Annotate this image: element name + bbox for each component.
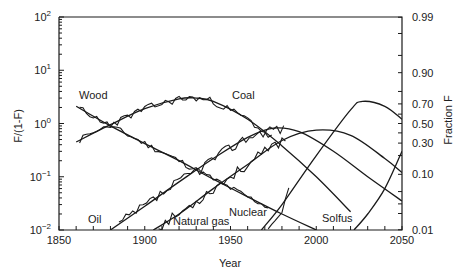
- x-tick-label: 1850: [47, 234, 71, 246]
- x-tick-label: 1900: [133, 234, 157, 246]
- series-label-solfus: Solfus: [322, 212, 353, 224]
- series-label-oil: Oil: [88, 213, 101, 225]
- y-tick-label: 10−1: [30, 169, 52, 183]
- series-label-natural-gas: Natural gas: [173, 215, 230, 227]
- y-tick-label: 101: [34, 62, 51, 76]
- x-tick-label: 1950: [218, 234, 242, 246]
- y2-tick-label: 0.01: [412, 224, 433, 236]
- y2-tick-label: 0.30: [412, 137, 433, 149]
- historical-coal: [80, 96, 272, 143]
- x-tick-label: 2050: [390, 234, 414, 246]
- y2-tick-label: 0.50: [412, 118, 433, 130]
- y2-tick-label: 0.90: [412, 67, 433, 79]
- curve-solfus: [354, 151, 402, 230]
- y2-axis-title: Fraction F: [442, 95, 454, 145]
- series-label-wood: Wood: [79, 89, 108, 101]
- y-axis-title: F/(1-F): [12, 109, 24, 143]
- y2-tick-label: 0.70: [412, 98, 433, 110]
- y-tick-label: 100: [34, 116, 51, 130]
- series-label-nuclear: Nuclear: [229, 206, 267, 218]
- curve-coal: [76, 98, 350, 212]
- x-tick-label: 2000: [304, 234, 328, 246]
- y2-tick-label: 0.99: [412, 11, 433, 23]
- plot-frame: [59, 17, 402, 230]
- series-label-coal: Coal: [232, 89, 255, 101]
- x-axis-title: Year: [219, 257, 242, 269]
- y-tick-label: 102: [34, 9, 51, 23]
- logistic-substitution-chart: 1850190019502000205010210110010−110−20.9…: [0, 0, 466, 277]
- y2-tick-label: 0.10: [412, 168, 433, 180]
